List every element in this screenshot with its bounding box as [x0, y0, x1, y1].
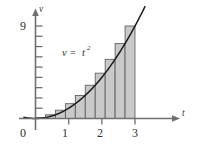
- equation-annotation: v = t 2: [62, 44, 91, 58]
- equation-base: t: [82, 47, 86, 58]
- y-tick-label-9: 9: [20, 19, 26, 33]
- equation-equals-sign: =: [70, 47, 76, 58]
- y-axis-label: v: [39, 4, 44, 14]
- equation-variable: v: [62, 47, 67, 58]
- origin-label: 0: [20, 126, 26, 140]
- equation-exponent: 2: [87, 44, 91, 52]
- x-axis-label: t: [182, 108, 185, 118]
- x-tick-label-1: 1: [62, 126, 68, 140]
- labels-layer: v t 9 0 1 2 3 v = t 2: [0, 0, 197, 147]
- x-tick-label-2: 2: [97, 126, 103, 140]
- x-tick-label-3: 3: [132, 126, 138, 140]
- riemann-sum-velocity-figure: v t 9 0 1 2 3 v = t 2: [0, 0, 197, 147]
